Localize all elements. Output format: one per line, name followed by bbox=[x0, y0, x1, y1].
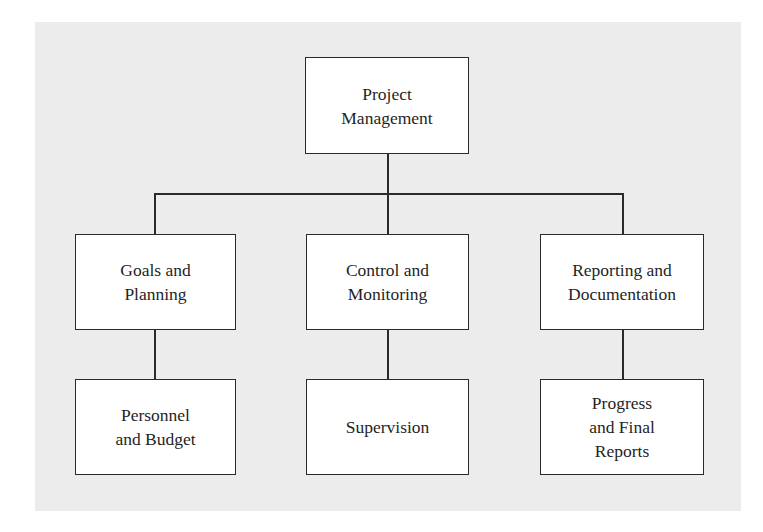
node-label: Control and Monitoring bbox=[346, 258, 429, 306]
node-goals-and-planning: Goals and Planning bbox=[75, 234, 236, 330]
connector-middle-down bbox=[387, 193, 389, 234]
node-supervision: Supervision bbox=[306, 379, 469, 475]
connector-middle-child bbox=[387, 329, 389, 380]
connector-left-child bbox=[154, 329, 156, 380]
connector-left-down bbox=[154, 193, 156, 234]
node-label: Reporting and Documentation bbox=[568, 258, 676, 306]
node-label: Personnel and Budget bbox=[115, 403, 195, 451]
connector-root-down bbox=[387, 153, 389, 195]
connector-right-child bbox=[622, 329, 624, 380]
node-control-and-monitoring: Control and Monitoring bbox=[306, 234, 469, 330]
node-reporting-and-documentation: Reporting and Documentation bbox=[540, 234, 704, 330]
node-label: Project Management bbox=[341, 82, 432, 130]
node-personnel-and-budget: Personnel and Budget bbox=[75, 379, 236, 475]
connector-right-down bbox=[622, 193, 624, 234]
node-project-management: Project Management bbox=[305, 57, 469, 154]
node-label: Goals and Planning bbox=[120, 258, 190, 306]
node-label: Progress and Final Reports bbox=[589, 391, 655, 463]
node-label: Supervision bbox=[346, 415, 430, 439]
connector-horizontal bbox=[154, 193, 623, 195]
node-progress-and-final-reports: Progress and Final Reports bbox=[540, 379, 704, 475]
